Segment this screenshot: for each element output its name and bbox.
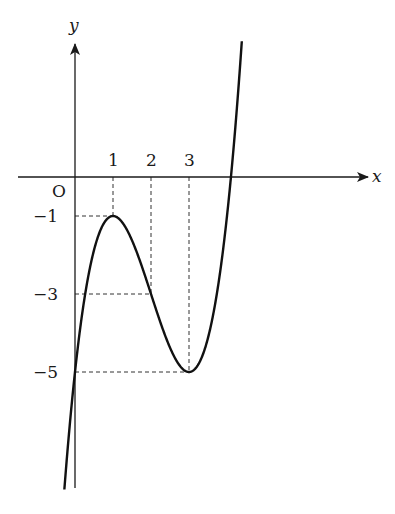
y-axis-label: y <box>68 15 79 35</box>
y-tick-label: −1 <box>33 206 58 226</box>
x-tick-label: 1 <box>108 150 119 170</box>
origin-label: O <box>52 181 66 201</box>
y-tick-label: −3 <box>33 284 58 304</box>
x-tick-label: 2 <box>146 150 157 170</box>
function-curve <box>64 41 241 489</box>
dashed-guide-lines <box>75 177 189 372</box>
x-tick-labels: 123 <box>108 150 195 170</box>
y-tick-labels: −1−3−5 <box>33 206 58 382</box>
x-axis-label: x <box>372 166 382 186</box>
cubic-function-graph: x y O 123 −1−3−5 <box>0 0 395 514</box>
y-tick-label: −5 <box>33 362 58 382</box>
x-tick-label: 3 <box>184 150 195 170</box>
